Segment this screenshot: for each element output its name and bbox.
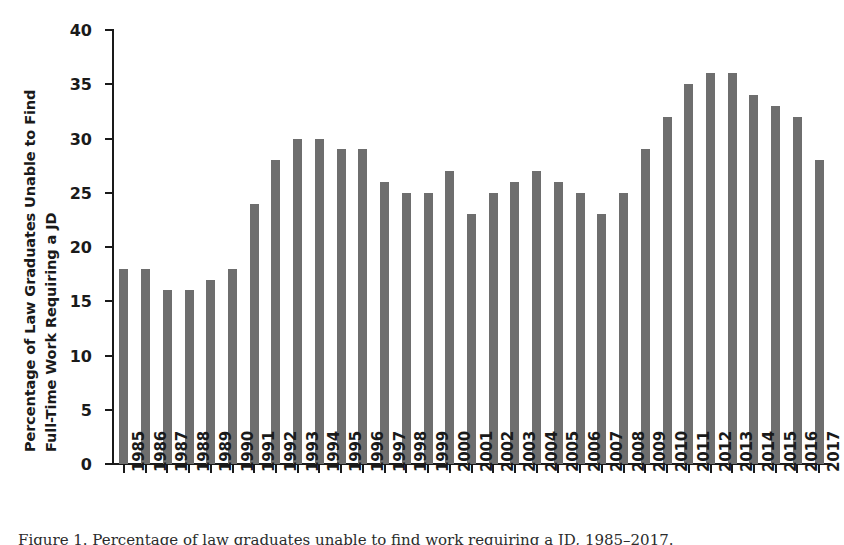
x-axis-tick-label: 2014: [760, 431, 778, 472]
x-axis-tick-label: 2006: [586, 431, 604, 472]
x-axis-tick-label: 1995: [347, 431, 365, 472]
y-axis-tick: 5: [105, 409, 114, 411]
bar: [358, 149, 367, 464]
y-axis-tick: 25: [105, 192, 114, 194]
bar: [424, 193, 433, 464]
y-axis-tick-label: 30: [70, 129, 92, 148]
y-axis-tick-label: 15: [70, 292, 92, 311]
y-axis-tick: 30: [105, 138, 114, 140]
bar: [684, 84, 693, 464]
bar: [641, 149, 650, 464]
x-axis-tick-label: 2001: [478, 431, 496, 472]
x-axis-tick-label: 2013: [738, 431, 756, 472]
bar: [793, 117, 802, 464]
y-axis-title-line-1: Percentage of Law Graduates Unable to Fi…: [22, 90, 38, 452]
x-axis-tick-label: 1992: [282, 431, 300, 472]
chart-figure: Percentage of Law Graduates Unable to Fi…: [0, 0, 844, 545]
y-axis-tick-label: 0: [81, 455, 92, 474]
x-axis-tick-label: 1999: [434, 431, 452, 472]
x-axis-tick-label: 1990: [239, 431, 257, 472]
bar: [315, 139, 324, 465]
bar: [271, 160, 280, 464]
bar: [576, 193, 585, 464]
x-axis-tick-label: 1996: [369, 431, 387, 472]
bar: [749, 95, 758, 464]
x-axis-tick-label: 1993: [304, 431, 322, 472]
x-axis-tick-label: 2015: [782, 431, 800, 472]
bar: [532, 171, 541, 464]
bar: [293, 139, 302, 465]
x-axis-tick-label: 2000: [456, 431, 474, 472]
bar: [706, 73, 715, 464]
x-axis-tick: [123, 464, 125, 473]
x-axis-tick-label: 2002: [499, 431, 517, 472]
bar: [554, 182, 563, 464]
y-axis-tick-label: 20: [70, 238, 92, 257]
x-axis-tick-label: 1994: [325, 431, 343, 472]
x-axis-tick-label: 2012: [717, 431, 735, 472]
x-axis-tick-label: 2008: [630, 431, 648, 472]
bar: [119, 269, 128, 464]
y-axis-title-line-2: Full-Time Work Requiring a JD: [43, 213, 59, 452]
y-axis-title: Percentage of Law Graduates Unable to Fi…: [0, 0, 60, 470]
x-axis-tick-label: 2009: [651, 431, 669, 472]
bar: [663, 117, 672, 464]
y-axis-tick: 10: [105, 355, 114, 357]
y-axis-tick-label: 25: [70, 183, 92, 202]
bar: [489, 193, 498, 464]
bar: [402, 193, 411, 464]
x-axis-tick-label: 1985: [130, 431, 148, 472]
x-axis-tick-label: 1989: [217, 431, 235, 472]
x-axis-tick-label: 1987: [173, 431, 191, 472]
plot-area: 0510152025303540: [113, 30, 830, 464]
y-axis-tick: 35: [105, 83, 114, 85]
x-axis-tick-label: 2016: [803, 431, 821, 472]
bar: [619, 193, 628, 464]
bar: [815, 160, 824, 464]
bar: [250, 204, 259, 464]
bar: [445, 171, 454, 464]
bar: [771, 106, 780, 464]
x-axis-tick-label: 1997: [391, 431, 409, 472]
x-axis-tick-label: 2010: [673, 431, 691, 472]
x-axis-tick-label: 1988: [195, 431, 213, 472]
x-axis-tick-label: 1986: [152, 431, 170, 472]
bar: [337, 149, 346, 464]
y-axis-tick: 15: [105, 300, 114, 302]
y-axis-tick: 20: [105, 246, 114, 248]
y-axis-tick: 0: [105, 463, 114, 465]
y-axis-tick-label: 10: [70, 346, 92, 365]
x-axis-tick-label: 1991: [260, 431, 278, 472]
x-axis-tick-label: 2004: [543, 431, 561, 472]
bar: [597, 214, 606, 464]
y-axis-tick-label: 35: [70, 75, 92, 94]
figure-caption: Figure 1. Percentage of law graduates un…: [18, 531, 828, 545]
x-axis-tick-label: 1998: [412, 431, 430, 472]
y-axis-tick: 40: [105, 29, 114, 31]
x-axis-tick-label: 2005: [564, 431, 582, 472]
x-axis-tick-label: 2007: [608, 431, 626, 472]
bar: [728, 73, 737, 464]
x-axis-tick-label: 2003: [521, 431, 539, 472]
x-axis-tick-label: 2011: [695, 431, 713, 472]
bar: [380, 182, 389, 464]
x-axis-tick-label: 2017: [825, 431, 843, 472]
bar: [510, 182, 519, 464]
y-axis-tick-label: 40: [70, 21, 92, 40]
y-axis-tick-label: 5: [81, 400, 92, 419]
bar: [467, 214, 476, 464]
